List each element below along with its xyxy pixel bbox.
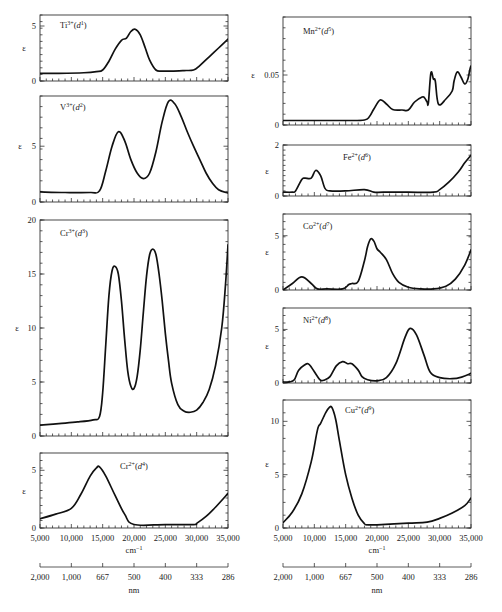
nm-tick-label: 333 xyxy=(433,572,446,582)
x-tick-label: 10,000 xyxy=(60,533,83,543)
nm-tick-label: 286 xyxy=(465,572,478,582)
x-tick-label: 35,000 xyxy=(459,533,482,543)
panel-v: 05εV3+(d2) xyxy=(18,96,228,207)
nm-tick-label: 1,000 xyxy=(62,572,81,582)
nm-tick-label: 400 xyxy=(402,572,415,582)
y-tick-label: 5 xyxy=(275,231,279,241)
y-tick-label: 0 xyxy=(275,523,279,533)
ion-label-cr3: Cr3+(d3) xyxy=(60,228,88,239)
x-tick-label: 5,000 xyxy=(30,533,49,543)
ion-label-ti: Ti3+(d1) xyxy=(60,20,87,31)
y-tick-label: 15 xyxy=(28,269,37,279)
nm-tick-label: 667 xyxy=(339,572,352,582)
y-tick-label: 0 xyxy=(32,523,36,533)
nm-tick-label: 286 xyxy=(222,572,235,582)
spectra-svg: 05εTi3+(d1)05εV3+(d2)05101520εCr3+(d3)05… xyxy=(0,0,502,612)
y-ticks xyxy=(40,96,228,202)
panel-ti: 05εTi3+(d1) xyxy=(22,15,228,86)
ion-label-cu: Cu2+(d9) xyxy=(345,405,374,416)
y-axis-label: ε xyxy=(265,341,269,351)
x-tick-label: 10,000 xyxy=(303,533,326,543)
ion-label-fe: Fe2+(d6) xyxy=(343,152,371,163)
panel-cu: 0510εCu2+(d9) xyxy=(265,400,471,533)
spectrum-curve-cr2 xyxy=(40,466,228,525)
y-tick-label: 5 xyxy=(275,470,279,480)
nm-tick-label: 500 xyxy=(371,572,384,582)
ion-label-cr2: Cr2+(d4) xyxy=(120,461,148,472)
y-axis-label: ε xyxy=(265,166,269,176)
x-axis-left: 5,00010,00015,00020,00025,00030,00035,00… xyxy=(30,533,239,555)
y-axis-label: ε xyxy=(22,486,26,496)
x-axis-title-cm: cm−1 xyxy=(126,545,143,556)
panel-co: 05εCo2+(d7) xyxy=(265,214,471,295)
x-tick-label: 15,000 xyxy=(334,533,357,543)
panel-fe: 02εFe2+(d6) xyxy=(265,140,471,201)
y-tick-label: 0 xyxy=(275,191,279,201)
spectrum-curve-cr3 xyxy=(40,245,228,425)
spectrum-curve-cu xyxy=(283,406,471,525)
plot-frame xyxy=(40,96,228,202)
x-tick-label: 25,000 xyxy=(397,533,420,543)
plot-frame xyxy=(40,220,228,436)
y-tick-label: 0 xyxy=(275,378,279,388)
y-tick-label: 0 xyxy=(275,120,279,130)
y-tick-label: 0 xyxy=(32,197,36,207)
nm-axis-title: nm xyxy=(129,585,140,595)
nm-tick-label: 333 xyxy=(190,572,203,582)
nm-axis-right: 2,0001,000667500400333286nm xyxy=(273,563,477,595)
x-axis-right: 5,00010,00015,00020,00025,00030,00035,00… xyxy=(273,533,482,555)
x-tick-label: 20,000 xyxy=(365,533,388,543)
y-tick-label: 5 xyxy=(32,377,36,387)
x-ticks xyxy=(40,198,228,202)
x-axis-title-cm: cm−1 xyxy=(369,545,386,556)
nm-tick-label: 667 xyxy=(96,572,109,582)
spectrum-curve-co xyxy=(283,239,471,290)
x-tick-label: 5,000 xyxy=(273,533,292,543)
nm-tick-label: 2,000 xyxy=(30,572,49,582)
y-tick-label: 10 xyxy=(271,416,280,426)
y-tick-label: 0 xyxy=(32,76,36,86)
ion-label-mn: Mn2+(d5) xyxy=(303,26,334,37)
spectrum-curve-ni xyxy=(283,328,471,382)
nm-tick-label: 500 xyxy=(128,572,141,582)
y-ticks xyxy=(40,220,228,436)
ion-label-co: Co2+(d7) xyxy=(303,221,332,232)
ion-label-ni: Ni2+(d8) xyxy=(303,315,331,326)
y-axis-label: ε xyxy=(265,459,269,469)
y-tick-label: 10 xyxy=(28,323,37,333)
spectrum-curve-mn xyxy=(283,28,490,121)
nm-axis-title: nm xyxy=(372,585,383,595)
y-tick-label: 0 xyxy=(32,431,36,441)
y-tick-label: 0 xyxy=(275,285,279,295)
panel-ni: 05εNi2+(d8) xyxy=(265,308,471,388)
y-tick-label: 2 xyxy=(275,140,279,150)
x-ticks xyxy=(283,121,471,125)
x-tick-label: 20,000 xyxy=(122,533,145,543)
y-tick-label: 5 xyxy=(32,141,36,151)
x-tick-label: 30,000 xyxy=(185,533,208,543)
spectrum-curve-ti xyxy=(40,29,228,73)
y-tick-label: 0.05 xyxy=(264,70,279,80)
spectrum-curve-fe xyxy=(283,155,471,192)
y-axis-label: ε xyxy=(18,141,22,151)
x-ticks xyxy=(40,77,228,81)
y-axis-label: ε xyxy=(15,323,19,333)
x-tick-label: 15,000 xyxy=(91,533,114,543)
nm-tick-label: 2,000 xyxy=(273,572,292,582)
x-ticks xyxy=(40,432,228,436)
y-tick-label: 5 xyxy=(32,21,36,31)
y-axis-label: ε xyxy=(251,70,255,80)
y-tick-label: 5 xyxy=(32,465,36,475)
panel-cr2: 05εCr2+(d4) xyxy=(22,453,228,533)
spectrum-curve-v xyxy=(40,100,228,193)
y-tick-label: 5 xyxy=(275,324,279,334)
panel-cr3: 05101520εCr3+(d3) xyxy=(15,215,228,441)
y-axis-label: ε xyxy=(265,247,269,257)
y-tick-label: 20 xyxy=(28,215,37,225)
x-tick-label: 35,000 xyxy=(216,533,239,543)
panel-mn: 00.05εMn2+(d5) xyxy=(251,17,490,130)
ion-label-v: V3+(d2) xyxy=(60,102,86,113)
spectra-figure: 05εTi3+(d1)05εV3+(d2)05101520εCr3+(d3)05… xyxy=(0,0,502,612)
y-axis-label: ε xyxy=(22,43,26,53)
x-tick-label: 25,000 xyxy=(154,533,177,543)
